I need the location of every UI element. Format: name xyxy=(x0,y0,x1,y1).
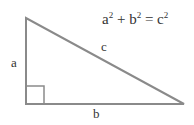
pythagorean-diagram: a2 + b2 = c2 a b c xyxy=(0,0,194,125)
pythagorean-formula: a2 + b2 = c2 xyxy=(102,12,168,27)
formula-b: b xyxy=(129,11,137,27)
formula-a: a xyxy=(102,11,109,27)
formula-plus: + xyxy=(113,11,129,27)
formula-c-exponent: 2 xyxy=(164,10,169,20)
right-triangle xyxy=(26,18,184,104)
side-a-label: a xyxy=(11,56,17,69)
right-angle-marker xyxy=(26,86,44,104)
side-b-label: b xyxy=(93,107,100,120)
side-c-label: c xyxy=(101,40,107,53)
formula-c: c xyxy=(157,11,164,27)
formula-equals: = xyxy=(141,11,157,27)
